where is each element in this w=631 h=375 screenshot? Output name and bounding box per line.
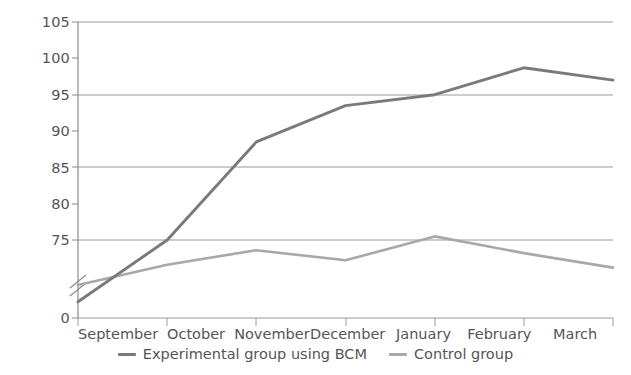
line-chart: 105 100 95 90 85 80 75 0 [0, 0, 631, 375]
x-tick-label-october: October [158, 322, 234, 348]
legend-item-experimental: Experimental group using BCM [118, 346, 367, 362]
legend-item-control: Control group [389, 346, 513, 362]
chart-legend: Experimental group using BCM Control gro… [0, 346, 631, 362]
x-axis-labels: September October November December Janu… [78, 322, 613, 348]
legend-swatch-icon [389, 353, 407, 356]
series-line-control-group [78, 236, 613, 285]
x-tick-label-february: February [461, 322, 537, 348]
y-axis-ticks [72, 22, 78, 318]
gridlines [78, 22, 613, 240]
legend-swatch-icon [118, 353, 136, 356]
x-tick-label-march: March [537, 322, 613, 348]
legend-label-experimental: Experimental group using BCM [143, 346, 367, 362]
plot-area [0, 0, 631, 375]
x-tick-label-september: September [78, 322, 158, 348]
x-tick-label-january: January [386, 322, 462, 348]
x-tick-label-november: November [234, 322, 310, 348]
x-tick-label-december: December [310, 322, 386, 348]
legend-label-control: Control group [414, 346, 513, 362]
